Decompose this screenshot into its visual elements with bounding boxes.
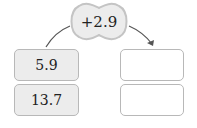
- answer-box-2[interactable]: [120, 84, 184, 116]
- left-box-1: 5.9: [14, 49, 79, 81]
- arrowhead-icon: [147, 40, 154, 46]
- answer-box-1[interactable]: [120, 49, 184, 81]
- operation-label: +2.9: [67, 2, 131, 41]
- right-arc-arrow: [129, 26, 152, 44]
- left-box-2: 13.7: [14, 84, 79, 116]
